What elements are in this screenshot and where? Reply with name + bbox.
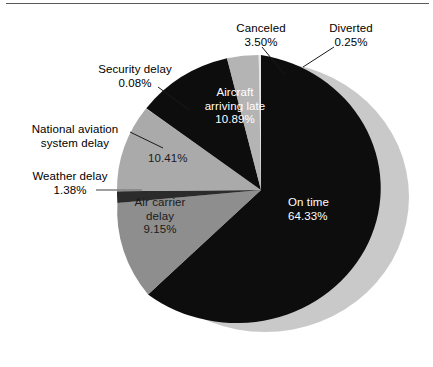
label-aircraft-arriving-late-name: Aircraft	[216, 86, 253, 98]
label-national-aviation-system-delay-value: 10.41%	[148, 152, 202, 166]
label-on-time: On time 64.33%	[288, 196, 354, 223]
label-aircraft-arriving-late: Aircraft arriving late 10.89%	[192, 86, 278, 127]
pie-chart-figure: Canceled 3.50% Diverted 0.25% Security d…	[0, 0, 433, 367]
label-national-aviation-system-delay-sub: system delay	[41, 137, 109, 149]
label-canceled-value: 3.50%	[244, 36, 277, 48]
label-aircraft-arriving-late-sub: arriving late	[205, 100, 266, 112]
label-weather-delay-name: Weather delay	[32, 170, 107, 182]
label-canceled-name: Canceled	[236, 22, 285, 34]
label-weather-delay-value: 1.38%	[53, 184, 86, 196]
label-canceled: Canceled 3.50%	[222, 22, 300, 49]
label-national-aviation-system-delay: National aviation system delay	[20, 123, 130, 150]
label-air-carrier-delay-name: Air carrier	[135, 196, 186, 208]
label-air-carrier-delay-sub: delay	[146, 210, 174, 222]
label-security-delay-name: Security delay	[98, 63, 172, 75]
label-diverted-value: 0.25%	[334, 36, 367, 48]
label-weather-delay: Weather delay 1.38%	[20, 170, 120, 197]
label-diverted-name: Diverted	[329, 22, 373, 34]
label-diverted: Diverted 0.25%	[318, 22, 384, 49]
label-aircraft-arriving-late-value: 10.89%	[215, 113, 255, 125]
leader-line-diverted	[303, 47, 334, 67]
label-air-carrier-delay-value: 9.15%	[143, 223, 176, 235]
label-security-delay-value: 0.08%	[118, 77, 151, 89]
label-security-delay: Security delay 0.08%	[88, 63, 182, 90]
label-national-aviation-system-delay-name: National aviation	[32, 123, 119, 135]
label-air-carrier-delay: Air carrier delay 9.15%	[120, 196, 200, 237]
label-on-time-value: 64.33%	[288, 210, 328, 222]
label-on-time-name: On time	[288, 196, 329, 208]
